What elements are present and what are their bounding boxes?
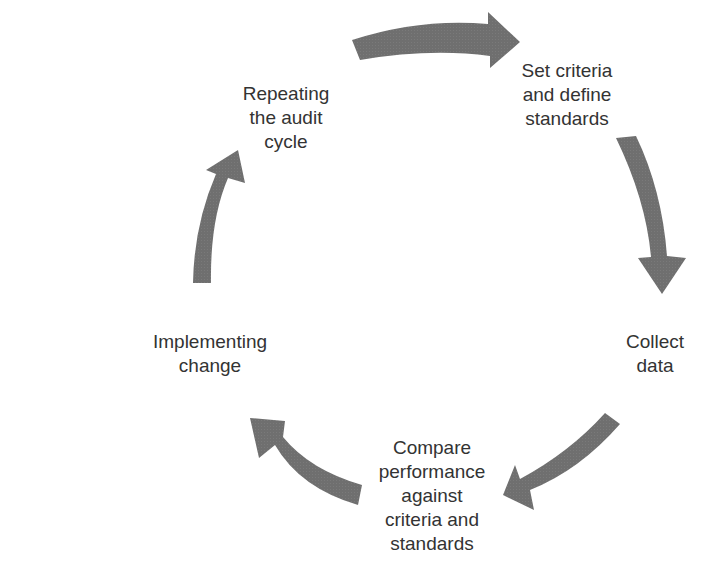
step-collect-data: Collect data (626, 330, 684, 378)
arrow-implementing-to-repeat (193, 150, 245, 283)
arrow-compare-to-implementing (250, 418, 362, 505)
arrow-collect-to-compare (503, 413, 620, 510)
step-implementing-change: Implementing change (153, 330, 267, 378)
arrow-criteria-to-collect (616, 136, 686, 294)
arrow-repeat-to-criteria (352, 12, 520, 68)
step-set-criteria: Set criteria and define standards (522, 59, 613, 131)
step-repeating-cycle: Repeating the audit cycle (243, 82, 330, 154)
step-compare-performance: Compare performance against criteria and… (379, 436, 486, 556)
